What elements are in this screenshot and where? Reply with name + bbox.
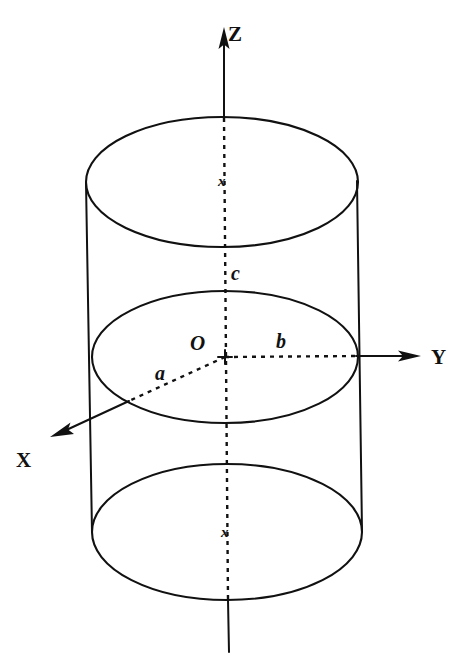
y-axis-label: Y xyxy=(431,345,446,369)
dimension-label-a: a xyxy=(155,362,165,384)
z-axis-label: Z xyxy=(228,22,242,46)
dimension-label-b: b xyxy=(276,330,286,352)
z-axis-group xyxy=(219,27,230,652)
x-axis-dashed-inner xyxy=(129,357,225,401)
origin-tick xyxy=(218,350,232,364)
x-axis-label: X xyxy=(16,448,31,472)
cylinder-coordinate-diagram: x x Z Y X a b c O xyxy=(0,0,468,668)
x-axis-solid-outer xyxy=(62,401,129,432)
x-axis-arrowhead-icon xyxy=(50,423,74,438)
bottom-face-center-mark: x xyxy=(220,524,229,540)
x-axis-group xyxy=(50,357,225,437)
top-face-center-mark: x xyxy=(217,173,226,189)
y-axis-dashed-inner xyxy=(225,356,356,357)
figure-canvas: x x Z Y X a b c O xyxy=(0,0,468,668)
z-axis-solid-lower xyxy=(228,600,229,652)
origin-label: O xyxy=(190,331,205,355)
dimension-label-c: c xyxy=(231,262,240,284)
y-axis-group xyxy=(225,351,421,362)
